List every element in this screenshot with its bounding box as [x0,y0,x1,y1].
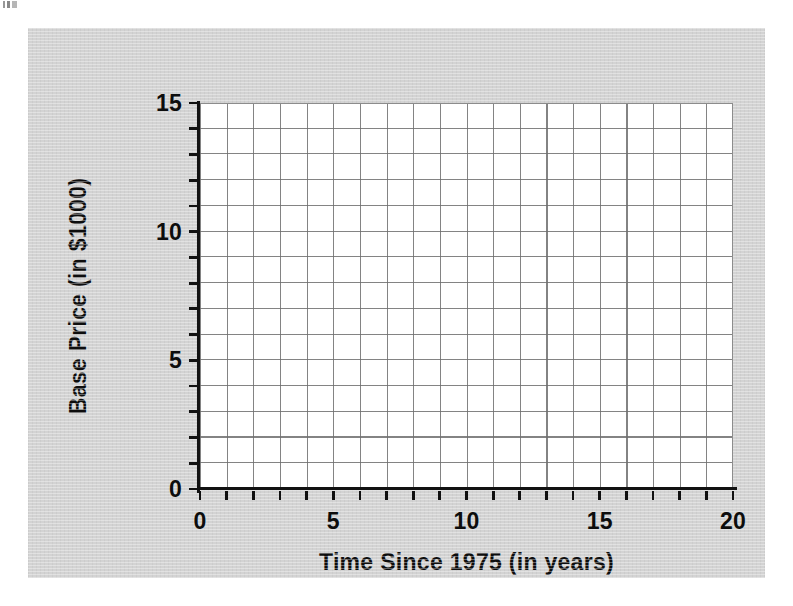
x-axis-tick [492,491,495,500]
x-axis-tick [412,491,415,500]
x-axis-tick [705,491,708,500]
x-axis-tick [385,491,388,500]
y-axis-tick-label: 5 [169,349,182,372]
x-axis-tick [359,491,362,500]
x-axis-line [197,487,737,490]
x-axis-tick [625,491,628,500]
x-axis-tick-label: 0 [194,510,207,533]
x-axis-tick [225,491,228,500]
x-axis-tick [465,491,468,500]
x-axis-tick-label: 10 [454,510,480,533]
y-axis-tick-label: 15 [156,92,182,115]
x-axis-tick-label: 20 [720,510,746,533]
x-axis-tick [598,491,601,500]
x-axis-tick [279,491,282,500]
x-axis-tick [305,491,308,500]
x-axis-tick [545,491,548,500]
axis-tick-layer: 05101505101520 [28,28,765,578]
scan-artifact-speck [3,1,17,8]
figure-panel: 05101505101520 Base Price (in $1000) Tim… [28,28,765,578]
x-axis-tick [678,491,681,500]
x-axis-tick [332,491,335,500]
x-axis-tick-label: 15 [587,510,613,533]
x-axis-tick [652,491,655,500]
y-axis-tick-label: 10 [156,220,182,243]
x-axis-tick [518,491,521,500]
x-axis-tick [252,491,255,500]
x-axis-tick-label: 5 [327,510,340,533]
x-axis-tick [732,491,735,500]
y-axis-line [197,101,200,493]
y-axis-tick-label: 0 [169,478,182,501]
x-axis-tick [572,491,575,500]
x-axis-tick [438,491,441,500]
